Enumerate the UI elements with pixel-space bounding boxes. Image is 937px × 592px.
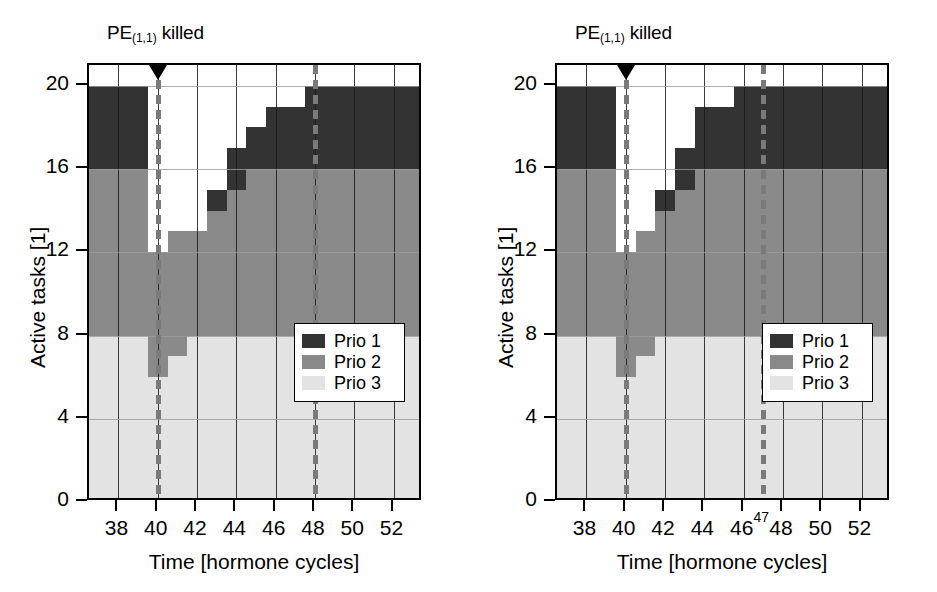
gridline-vertical (236, 65, 237, 498)
x-axis-tick (233, 500, 235, 511)
y-axis-tick (76, 83, 87, 85)
dashed-event-line (624, 65, 629, 500)
title-prefix: PE (575, 22, 600, 43)
gridline-vertical (862, 65, 863, 498)
dashed-event-line (761, 65, 766, 500)
y-axis-tick-label: 0 (9, 487, 69, 511)
area-cell-prio2 (675, 190, 695, 336)
gridline-vertical (354, 65, 355, 498)
panel-left: PE(1,1) killed0481216203840424446485052T… (0, 0, 468, 592)
gridline-horizontal (557, 419, 887, 420)
kill-event-marker (149, 65, 167, 80)
legend-label: Prio 2 (334, 353, 381, 371)
area-cell-prio1 (325, 86, 345, 169)
area-cell-prio1 (714, 107, 734, 169)
y-axis-tick (544, 333, 555, 335)
plot-area-left (87, 63, 421, 500)
legend-label: Prio 3 (334, 374, 381, 392)
panel-title-right: PE(1,1) killed (575, 22, 672, 45)
y-axis-tick (76, 333, 87, 335)
title-subscript: (1,1) (132, 31, 157, 45)
y-axis-tick-label: 16 (477, 154, 537, 178)
panel-title-left: PE(1,1) killed (107, 22, 204, 45)
dashed-event-line (156, 65, 161, 500)
legend-item: Prio 3 (302, 372, 395, 393)
y-axis-tick-label: 20 (9, 71, 69, 95)
legend-swatch-prio3 (302, 376, 325, 390)
gridline-vertical (783, 65, 784, 498)
title-suffix: killed (157, 22, 204, 43)
x-axis-tick (194, 500, 196, 511)
area-cell-prio3 (128, 336, 148, 500)
x-axis-minor-tick-label: 47 (731, 509, 791, 525)
x-axis-tick (115, 500, 117, 511)
gridline-vertical (822, 65, 823, 498)
area-cell-prio1 (832, 86, 852, 169)
y-axis-tick (544, 416, 555, 418)
gridline-horizontal (89, 86, 419, 87)
legend-item: Prio 2 (302, 351, 395, 372)
gridline-horizontal (557, 86, 887, 87)
area-cell-prio1 (403, 86, 421, 169)
legend-swatch-prio3 (770, 376, 793, 390)
area-cell-prio1 (246, 127, 266, 169)
area-cell-prio3 (871, 336, 889, 500)
title-prefix: PE (107, 22, 132, 43)
area-cell-prio2 (168, 231, 188, 356)
y-axis-tick-label: 20 (477, 71, 537, 95)
legend-item: Prio 2 (770, 351, 863, 372)
legend-item: Prio 1 (302, 330, 395, 351)
area-cell-prio2 (636, 231, 656, 356)
x-axis-tick (312, 500, 314, 511)
x-axis-tick (623, 500, 625, 511)
gridline-vertical (665, 65, 666, 498)
legend-label: Prio 2 (802, 353, 849, 371)
x-axis-tick (351, 500, 353, 511)
area-cell-prio3 (636, 356, 656, 500)
y-axis-tick (544, 249, 555, 251)
area-cell-prio3 (246, 336, 266, 500)
area-cell-prio3 (596, 336, 616, 500)
x-axis-tick (662, 500, 664, 511)
x-axis-tick-label: 52 (362, 516, 422, 540)
x-axis-tick (273, 500, 275, 511)
gridline-vertical (394, 65, 395, 498)
gridline-vertical (586, 65, 587, 498)
area-cell-prio1 (285, 107, 305, 169)
dashed-event-line (313, 65, 318, 500)
area-cell-prio3 (403, 336, 421, 500)
area-cell-prio1 (596, 86, 616, 169)
area-cell-prio1 (207, 190, 227, 211)
y-axis-tick (544, 83, 555, 85)
legend-swatch-prio1 (302, 334, 325, 348)
x-axis-tick-label: 52 (830, 516, 890, 540)
x-axis-tick (819, 500, 821, 511)
gridline-horizontal (557, 169, 887, 170)
legend-swatch-prio2 (770, 355, 793, 369)
gridline-vertical (704, 65, 705, 498)
area-cell-prio1 (128, 86, 148, 169)
area-cell-prio1 (557, 86, 577, 169)
gridline-vertical (197, 65, 198, 498)
x-axis-tick (391, 500, 393, 511)
area-cell-prio3 (168, 356, 188, 500)
y-axis-label: Active tasks [1] (494, 226, 518, 367)
legend-swatch-prio2 (302, 355, 325, 369)
area-cell-prio2 (207, 211, 227, 336)
kill-event-marker (617, 65, 635, 80)
area-cell-prio3 (89, 336, 109, 500)
gridline-horizontal (89, 169, 419, 170)
gridline-horizontal (557, 252, 887, 253)
legend-item: Prio 3 (770, 372, 863, 393)
area-cell-prio1 (871, 86, 889, 169)
gridline-horizontal (89, 419, 419, 420)
legend-left: Prio 1Prio 2Prio 3 (294, 323, 405, 402)
area-cell-prio3 (207, 336, 227, 500)
area-cell-prio1 (364, 86, 384, 169)
y-axis-tick (544, 166, 555, 168)
area-cell-prio3 (557, 336, 577, 500)
gridline-vertical (118, 65, 119, 498)
x-axis-label: Time [hormone cycles] (47, 550, 461, 574)
panel-right: PE(1,1) killed04812162038404244464850524… (468, 0, 936, 592)
y-axis-tick-label: 16 (9, 154, 69, 178)
